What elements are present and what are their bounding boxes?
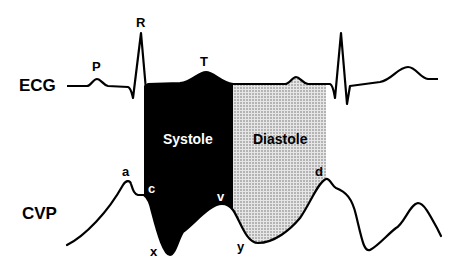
r-wave-label: R	[136, 15, 146, 30]
x-descent-label: x	[150, 244, 158, 259]
diastole-region	[233, 77, 326, 243]
diastole-label: Diastole	[253, 131, 308, 147]
a-wave-label: a	[122, 164, 130, 179]
systole-label: Systole	[163, 131, 213, 147]
y-descent-label: y	[237, 239, 245, 254]
v-wave-label: v	[217, 189, 225, 204]
t-wave-label: T	[200, 54, 208, 69]
p-wave-label: P	[92, 59, 101, 74]
cvp-row-label: CVP	[22, 204, 57, 223]
ecg-cvp-diagram: ECG CVP P R T Systole Diastole a c x v y…	[0, 0, 466, 275]
d-wave-label: d	[315, 164, 323, 179]
c-wave-label: c	[148, 181, 155, 196]
ecg-row-label: ECG	[19, 76, 56, 95]
